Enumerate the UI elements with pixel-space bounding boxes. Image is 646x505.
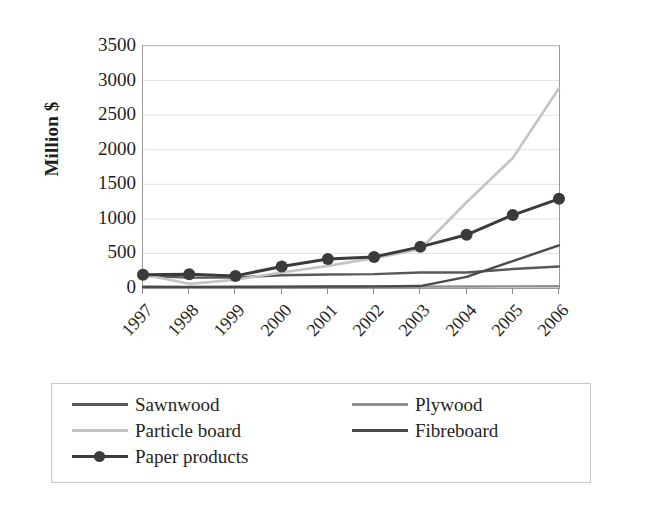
x-tick-mark [327,288,328,294]
legend-swatch-icon [72,422,128,438]
legend-swatch-icon [352,396,408,412]
x-tick-label: 2001 [286,300,342,358]
legend-label: Fibreboard [415,421,498,440]
x-tick-label: 2002 [332,300,388,358]
x-tick-label: 2003 [378,300,434,358]
x-tick-label: 1999 [194,300,250,358]
legend-label: Particle board [135,421,241,440]
legend-item-paper-products[interactable]: Paper products [72,444,248,468]
x-tick-mark [373,288,374,294]
x-tick-label: 1998 [147,300,203,358]
x-tick-mark [466,288,467,294]
x-tick-label: 2000 [240,300,296,358]
legend-swatch-icon [72,396,128,412]
legend-swatch-icon [352,422,408,438]
legend-item-fibreboard[interactable]: Fibreboard [352,418,498,442]
legend-item-sawnwood[interactable]: Sawnwood [72,392,219,416]
x-tick-label: 2004 [425,300,481,358]
legend-swatch-icon [72,448,128,464]
x-tick-mark [142,288,143,294]
legend-label: Sawnwood [135,395,219,414]
x-tick-mark [512,288,513,294]
legend-label: Paper products [135,447,248,466]
legend-item-plywood[interactable]: Plywood [352,392,483,416]
chart-figure: Million $ 0500100015002000250030003500 1… [0,0,646,505]
x-tick-mark [188,288,189,294]
x-tick-mark [419,288,420,294]
x-tick-mark [234,288,235,294]
chart-legend: SawnwoodPlywoodParticle boardFibreboardP… [51,383,591,483]
legend-label: Plywood [415,395,483,414]
x-tick-label: 2005 [471,300,527,358]
x-tick-label: 2006 [517,300,573,358]
x-tick-mark [281,288,282,294]
legend-item-particle-board[interactable]: Particle board [72,418,241,442]
x-tick-label: 1997 [101,300,157,358]
x-tick-mark [558,288,559,294]
